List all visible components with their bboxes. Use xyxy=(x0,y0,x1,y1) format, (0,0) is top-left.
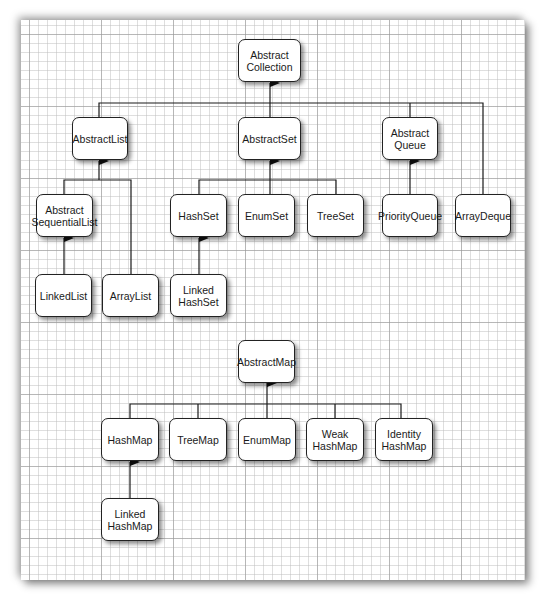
node-hash-map: HashMap xyxy=(101,418,159,461)
node-label: EnumMap xyxy=(243,434,291,446)
node-enum-set: EnumSet xyxy=(238,194,295,237)
node-identity-hash-map: Identity HashMap xyxy=(375,418,433,461)
node-abstract-queue: Abstract Queue xyxy=(382,117,438,160)
node-label: AbstractMap xyxy=(237,356,296,368)
node-label: Abstract Queue xyxy=(391,127,430,151)
node-tree-set: TreeSet xyxy=(307,194,364,237)
node-label: ArrayList xyxy=(110,290,151,302)
node-label: AbstractSet xyxy=(242,133,296,145)
node-label: AbstractList xyxy=(73,133,128,145)
node-label: Weak HashMap xyxy=(313,428,358,452)
node-label: ArrayDeque xyxy=(455,210,511,222)
node-label: Abstract Collection xyxy=(246,49,292,73)
node-label: HashSet xyxy=(178,210,218,222)
node-label: Identity HashMap xyxy=(382,428,427,452)
node-label: Linked HashMap xyxy=(108,508,153,532)
node-abstract-sequential-list: Abstract SequentialList xyxy=(36,194,93,237)
node-linked-hash-set: Linked HashSet xyxy=(170,274,227,317)
node-linked-list: LinkedList xyxy=(35,274,92,317)
node-array-deque: ArrayDeque xyxy=(455,194,511,237)
node-abstract-map: AbstractMap xyxy=(238,340,295,383)
node-label: TreeMap xyxy=(177,434,219,446)
node-label: Linked HashSet xyxy=(178,284,218,308)
node-priority-queue: PriorityQueue xyxy=(382,194,438,237)
node-tree-map: TreeMap xyxy=(169,418,227,461)
node-label: PriorityQueue xyxy=(378,210,442,222)
node-abstract-collection: Abstract Collection xyxy=(238,39,301,82)
node-enum-map: EnumMap xyxy=(238,418,296,461)
node-linked-hash-map: Linked HashMap xyxy=(101,498,159,541)
node-label: EnumSet xyxy=(245,210,288,222)
node-label: TreeSet xyxy=(317,210,354,222)
node-label: Abstract SequentialList xyxy=(32,204,98,228)
node-label: LinkedList xyxy=(40,290,87,302)
node-abstract-list: AbstractList xyxy=(72,117,128,160)
node-array-list: ArrayList xyxy=(102,274,159,317)
node-hash-set: HashSet xyxy=(170,194,227,237)
node-abstract-set: AbstractSet xyxy=(238,117,301,160)
node-label: HashMap xyxy=(108,434,153,446)
node-weak-hash-map: Weak HashMap xyxy=(306,418,364,461)
